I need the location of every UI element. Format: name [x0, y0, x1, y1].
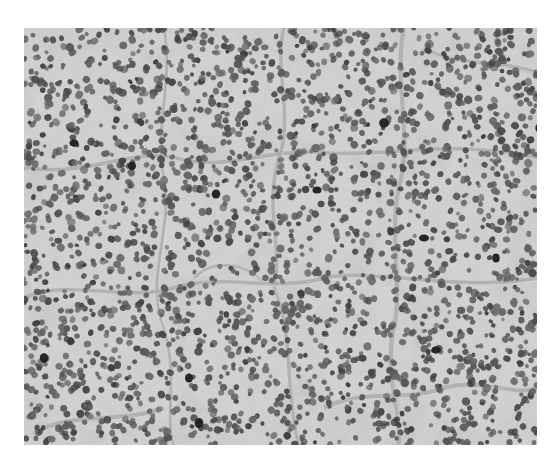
histology-micrograph [24, 28, 537, 445]
grain-texture [24, 28, 537, 445]
page-background [0, 0, 560, 460]
tissue-rendering [24, 28, 537, 445]
